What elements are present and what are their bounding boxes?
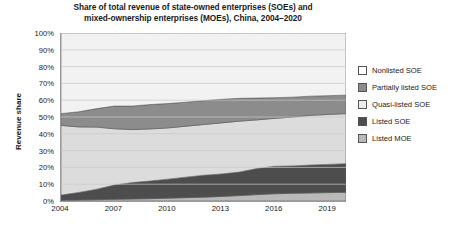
legend-swatch-icon xyxy=(358,100,367,109)
legend-label: Partially listed SOE xyxy=(372,83,437,92)
y-tick-label: 50% xyxy=(0,113,54,122)
legend-label: Listed SOE xyxy=(372,117,410,126)
y-tick-label: 40% xyxy=(0,129,54,138)
legend-label: Listed MOE xyxy=(372,134,412,143)
x-tick-label: 2007 xyxy=(93,204,133,213)
legend-label: Quasi-listed SOE xyxy=(372,100,430,109)
y-tick-label: 90% xyxy=(0,45,54,54)
chart-title-line2: mixed-ownership enterprises (MOEs), Chin… xyxy=(38,13,348,24)
legend-item[interactable]: Listed SOE xyxy=(358,113,437,130)
y-tick-label: 20% xyxy=(0,163,54,172)
y-tick-label: 60% xyxy=(0,96,54,105)
x-tick-label: 2019 xyxy=(307,204,347,213)
stacked-area-svg xyxy=(61,33,346,201)
chart-title: Share of total revenue of state-owned en… xyxy=(38,2,348,24)
x-tick-label: 2010 xyxy=(147,204,187,213)
legend-item[interactable]: Listed MOE xyxy=(358,130,437,147)
legend-item[interactable]: Quasi-listed SOE xyxy=(358,96,437,113)
y-tick-label: 100% xyxy=(0,29,54,38)
chart-title-line1: Share of total revenue of state-owned en… xyxy=(73,2,312,12)
plot-area xyxy=(60,33,346,202)
y-tick-label: 70% xyxy=(0,79,54,88)
legend-swatch-icon xyxy=(358,117,367,126)
legend-label: Nonlisted SOE xyxy=(372,66,422,75)
chart-figure: Share of total revenue of state-owned en… xyxy=(0,0,455,227)
x-tick-label: 2004 xyxy=(40,204,80,213)
y-tick-label: 80% xyxy=(0,62,54,71)
legend-swatch-icon xyxy=(358,66,367,75)
legend-swatch-icon xyxy=(358,134,367,143)
legend-swatch-icon xyxy=(358,83,367,92)
y-tick-label: 30% xyxy=(0,146,54,155)
legend-item[interactable]: Partially listed SOE xyxy=(358,79,437,96)
x-tick-label: 2016 xyxy=(254,204,294,213)
x-tick-label: 2013 xyxy=(200,204,240,213)
chart-legend: Nonlisted SOEPartially listed SOEQuasi-l… xyxy=(358,62,437,147)
legend-item[interactable]: Nonlisted SOE xyxy=(358,62,437,79)
y-tick-label: 10% xyxy=(0,180,54,189)
